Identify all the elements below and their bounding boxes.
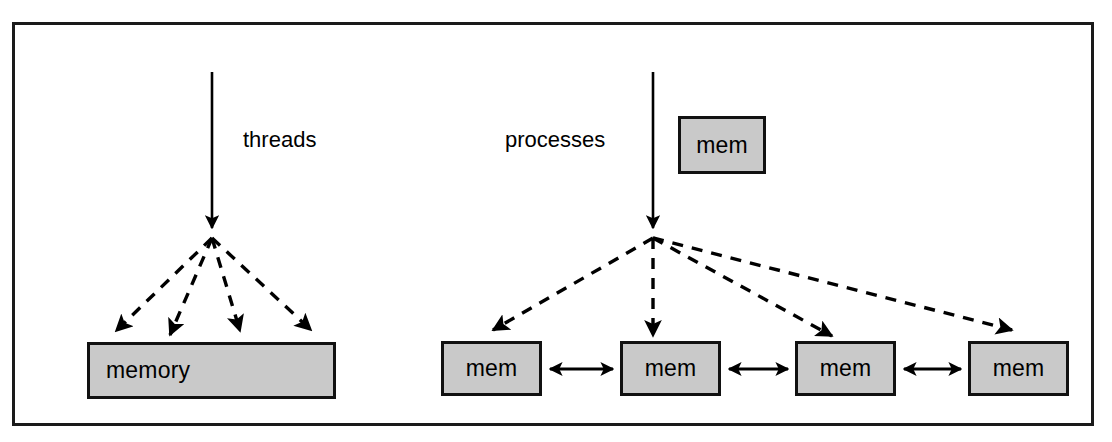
mem-box-3-label: mem — [820, 357, 872, 380]
processes-label: processes — [505, 129, 605, 151]
mem-box-top: mem — [678, 116, 766, 174]
threads-label: threads — [243, 129, 316, 151]
diagram-canvas: threads processes memory mem mem mem mem… — [0, 0, 1112, 442]
mem-box-3: mem — [795, 341, 896, 396]
mem-box-4-label: mem — [993, 357, 1045, 380]
shared-memory-box: memory — [87, 342, 336, 399]
shared-memory-label: memory — [106, 359, 190, 382]
mem-box-2-label: mem — [645, 357, 697, 380]
mem-box-4: mem — [968, 341, 1069, 396]
mem-box-2: mem — [620, 341, 721, 396]
mem-box-1-label: mem — [466, 357, 518, 380]
mem-box-top-label: mem — [696, 134, 748, 157]
mem-box-1: mem — [441, 341, 542, 396]
